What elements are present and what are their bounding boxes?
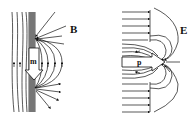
dipole-diagram: m B xyxy=(0,0,193,117)
dipole-label-p: p xyxy=(137,58,142,67)
field-label-b: B xyxy=(70,23,78,35)
field-label-e: E xyxy=(180,24,187,36)
dipole-label-m: m xyxy=(30,57,37,66)
